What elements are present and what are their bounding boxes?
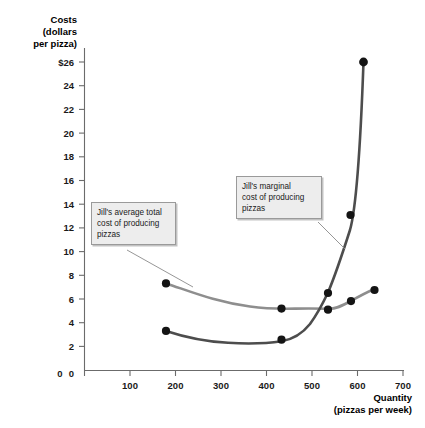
y-tick-label: 18	[63, 151, 74, 162]
data-point-atc	[162, 279, 170, 287]
x-axis-title-line: Quantity	[373, 392, 412, 403]
y-axis-title-line: Costs	[51, 14, 77, 25]
leader-line-mc	[318, 222, 345, 249]
x-tick-label: 700	[395, 380, 411, 391]
chart-canvas: $26 24 22 20 18 16 14 12 10 8 6 4 2 0	[0, 0, 425, 428]
y-tick-label: 20	[63, 128, 74, 139]
annotation-atc: Jill's average total cost of producing p…	[91, 202, 176, 245]
x-tick-label: 600	[350, 380, 366, 391]
y-tick-labels: $26 24 22 20 18 16 14 12 10 8 6 4 2 0	[58, 57, 75, 379]
y-tick-label: 4	[69, 317, 75, 328]
y-tick-label: $26	[58, 57, 74, 68]
y-tick-label: 12	[63, 222, 74, 233]
x-tick-label: 100	[122, 380, 138, 391]
x-axis-title-line: (pizzas per week)	[334, 404, 412, 415]
x-tick-label: 500	[304, 380, 320, 391]
series-line-atc	[166, 283, 375, 308]
annotation-mc-line2: cost of producing	[242, 192, 316, 203]
y-tick-label: 10	[63, 246, 74, 257]
y-axis-title-line: per pizza)	[33, 38, 77, 49]
y-tick-label: 22	[63, 104, 74, 115]
annotation-atc-line2: cost of producing	[97, 218, 170, 229]
data-point-atc	[324, 306, 332, 314]
y-tick-label: 24	[63, 80, 74, 91]
annotation-atc-line3: pizzas	[97, 229, 170, 240]
x-tick-label: 0	[57, 368, 62, 379]
annotation-mc: Jill's marginal cost of producing pizzas	[236, 176, 322, 219]
y-tick-label: 6	[69, 294, 74, 305]
data-point-atc	[347, 297, 355, 305]
y-tick-label: 8	[69, 270, 74, 281]
y-axis-title: Costs (dollars per pizza)	[33, 14, 77, 49]
data-point-mc	[346, 211, 354, 219]
data-point-mc	[162, 327, 170, 335]
data-point-atc	[277, 305, 285, 313]
leader-line-atc	[127, 250, 193, 287]
x-tick-label: 200	[168, 380, 184, 391]
x-tick-label: 400	[259, 380, 275, 391]
annotation-atc-line1: Jill's average total	[97, 207, 170, 218]
annotation-mc-line1: Jill's marginal	[242, 181, 316, 192]
annotation-mc-line3: pizzas	[242, 203, 316, 214]
y-tick-label: 16	[63, 175, 74, 186]
data-point-mc	[359, 58, 368, 67]
y-tick-label: 14	[63, 199, 74, 210]
y-axis-title-line: (dollars	[43, 26, 77, 37]
x-tick-label: 300	[213, 380, 229, 391]
data-point-mc	[277, 336, 285, 344]
y-tick-label: 2	[69, 341, 74, 352]
cost-curves-chart: $26 24 22 20 18 16 14 12 10 8 6 4 2 0	[0, 0, 425, 428]
data-point-mc	[324, 289, 332, 297]
y-tick-label: 0	[69, 368, 74, 379]
data-point-atc	[370, 286, 378, 294]
x-axis-title: Quantity (pizzas per week)	[334, 392, 413, 415]
